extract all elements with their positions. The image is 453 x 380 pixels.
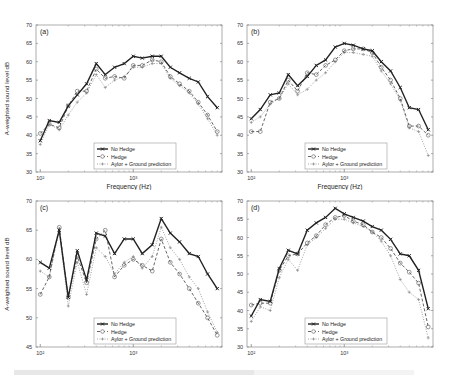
y-tick-label: 70 bbox=[26, 198, 32, 204]
legend-entry: No Hedge bbox=[111, 321, 135, 327]
legend-entry: Aylor + Ground prediction bbox=[111, 161, 171, 167]
y-tick-label: 40 bbox=[237, 132, 243, 138]
y-tick-label: 60 bbox=[237, 235, 243, 241]
legend: No HedgeHedgeAylor + Ground prediction bbox=[305, 318, 387, 344]
y-tick-label: 50 bbox=[237, 96, 243, 102]
y-tick-label: 70 bbox=[237, 198, 243, 204]
chart-panel-d: 30354045505560657010²10³Frequency (Hz)(d… bbox=[230, 185, 453, 357]
y-tick-label: 35 bbox=[26, 151, 32, 157]
panel-title: (a) bbox=[40, 28, 49, 36]
chart-d-svg: 30354045505560657010²10³Frequency (Hz)(d… bbox=[230, 185, 453, 357]
legend: No HedgeHedgeAylor + Ground prediction bbox=[305, 143, 387, 169]
x-tick-label: 10² bbox=[36, 350, 44, 356]
legend: No HedgeHedgeAylor + Ground prediction bbox=[94, 318, 176, 344]
y-tick-label: 65 bbox=[237, 40, 243, 46]
y-tick-label: 45 bbox=[26, 114, 32, 120]
y-tick-label: 35 bbox=[237, 151, 243, 157]
y-tick-label: 50 bbox=[26, 96, 32, 102]
y-tick-label: 50 bbox=[237, 271, 243, 277]
panel-title: (d) bbox=[251, 204, 260, 212]
y-tick-label: 60 bbox=[26, 59, 32, 65]
panel-title: (c) bbox=[40, 204, 48, 212]
x-tick-label: 10² bbox=[36, 175, 44, 181]
chart-panel-b: 30354045505560657010²10³Frequency (Hz)(b… bbox=[230, 0, 453, 190]
figure-caption bbox=[14, 370, 414, 375]
y-tick-label: 50 bbox=[26, 315, 32, 321]
legend-entry: Hedge bbox=[111, 154, 127, 160]
y-axis-label: A-weighted sound level dB bbox=[3, 237, 10, 310]
legend-entry: Hedge bbox=[322, 154, 338, 160]
y-tick-label: 45 bbox=[237, 114, 243, 120]
y-tick-label: 35 bbox=[237, 326, 243, 332]
y-tick-label: 70 bbox=[237, 22, 243, 28]
x-tick-label: 10² bbox=[247, 175, 255, 181]
legend-entry: Aylor + Ground prediction bbox=[322, 161, 382, 167]
x-tick-label: 10³ bbox=[340, 175, 348, 181]
legend-entry: Hedge bbox=[111, 329, 127, 335]
x-tick-label: 10³ bbox=[340, 350, 348, 356]
y-tick-label: 30 bbox=[237, 344, 243, 350]
legend-entry: Aylor + Ground prediction bbox=[111, 336, 171, 342]
y-tick-label: 30 bbox=[237, 169, 243, 175]
y-tick-label: 60 bbox=[237, 59, 243, 65]
legend: No HedgeHedgeAylor + Ground prediction bbox=[94, 143, 176, 169]
chart-panel-c: 45505560657010²10³Frequency (Hz)A-weight… bbox=[0, 185, 230, 357]
chart-c-svg: 45505560657010²10³Frequency (Hz)A-weight… bbox=[0, 185, 230, 357]
chart-panel-a: 30354045505560657010²10³Frequency (Hz)A-… bbox=[0, 0, 230, 190]
x-tick-label: 10³ bbox=[129, 175, 137, 181]
x-tick-label: 10² bbox=[247, 350, 255, 356]
y-tick-label: 45 bbox=[237, 289, 243, 295]
y-tick-label: 55 bbox=[26, 286, 32, 292]
panel-title: (b) bbox=[251, 28, 260, 36]
y-tick-label: 45 bbox=[26, 344, 32, 350]
legend-entry: Aylor + Ground prediction bbox=[322, 336, 382, 342]
y-tick-label: 70 bbox=[26, 22, 32, 28]
y-tick-label: 30 bbox=[26, 169, 32, 175]
y-tick-label: 55 bbox=[237, 77, 243, 83]
legend-entry: Hedge bbox=[322, 329, 338, 335]
x-tick-label: 10³ bbox=[129, 350, 137, 356]
y-tick-label: 55 bbox=[26, 77, 32, 83]
legend-entry: No Hedge bbox=[322, 146, 346, 152]
y-tick-label: 55 bbox=[237, 253, 243, 259]
y-axis-label: A-weighted sound level dB bbox=[3, 62, 10, 135]
y-tick-label: 65 bbox=[237, 216, 243, 222]
y-tick-label: 65 bbox=[26, 227, 32, 233]
legend-entry: No Hedge bbox=[111, 146, 135, 152]
y-tick-label: 40 bbox=[237, 308, 243, 314]
legend-entry: No Hedge bbox=[322, 321, 346, 327]
chart-b-svg: 30354045505560657010²10³Frequency (Hz)(b… bbox=[230, 0, 453, 190]
y-tick-label: 65 bbox=[26, 40, 32, 46]
y-tick-label: 40 bbox=[26, 132, 32, 138]
chart-a-svg: 30354045505560657010²10³Frequency (Hz)A-… bbox=[0, 0, 230, 190]
y-tick-label: 60 bbox=[26, 256, 32, 262]
